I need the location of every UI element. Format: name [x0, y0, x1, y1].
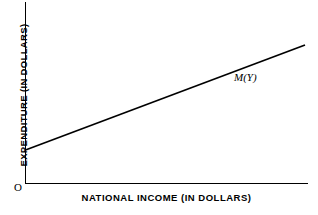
origin-label: O — [14, 182, 22, 193]
y-axis-label: EXPENDITURE (IN DOLLARS) — [17, 5, 31, 185]
curve-label-m-y: M(Y) — [234, 72, 257, 83]
figure-container: EXPENDITURE (IN DOLLARS) NATIONAL INCOME… — [0, 0, 318, 215]
x-axis-label: NATIONAL INCOME (IN DOLLARS) — [25, 192, 308, 203]
chart-canvas — [0, 0, 318, 215]
